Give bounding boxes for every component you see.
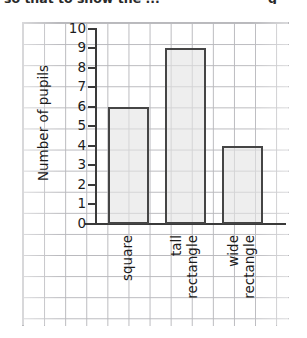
x-axis-category-label: rectangle xyxy=(186,235,200,330)
y-axis-tick-label: 3 xyxy=(60,156,86,172)
y-axis-tick-label: 1 xyxy=(60,195,86,211)
x-axis-category-label-text: wide xyxy=(227,235,241,267)
chart-page: so that to show the ... g Number of pupi… xyxy=(0,0,307,338)
x-axis-category-label: rectangle xyxy=(243,235,257,330)
y-axis-tick-label: 4 xyxy=(60,137,86,153)
y-axis-tick-label-text: 4 xyxy=(64,137,86,153)
y-axis-tick-label: 8 xyxy=(60,59,86,75)
y-axis-tick xyxy=(88,164,97,166)
y-axis-tick xyxy=(88,47,97,49)
x-axis-category-label: square xyxy=(121,235,135,330)
y-axis-tick xyxy=(88,106,97,108)
y-axis-tick-label-text: 10 xyxy=(64,20,86,36)
y-axis-tick-label: 6 xyxy=(60,98,86,114)
bar-chart-plot: Number of pupils 012345678910 squaretall… xyxy=(0,0,307,338)
y-axis-tick-label: 2 xyxy=(60,176,86,192)
y-axis-tick-label-text: 3 xyxy=(64,156,86,172)
y-axis-tick xyxy=(88,28,97,30)
bar xyxy=(165,48,206,224)
y-axis-tick xyxy=(88,203,97,205)
y-axis-tick-label: 9 xyxy=(60,39,86,55)
y-axis-tick xyxy=(88,184,97,186)
y-axis-tick-label-text: 9 xyxy=(64,39,86,55)
y-axis-tick-label-text: 6 xyxy=(64,98,86,114)
x-axis-category-label: tall xyxy=(170,235,184,330)
y-axis-tick xyxy=(88,86,97,88)
y-axis-tick-label-text: 1 xyxy=(64,195,86,211)
bar xyxy=(222,146,263,225)
y-axis-title: Number of pupils xyxy=(35,58,51,188)
y-axis-tick-label-text: 0 xyxy=(64,215,86,231)
y-axis-tick xyxy=(88,67,97,69)
y-axis-tick xyxy=(88,145,97,147)
y-axis-tick xyxy=(88,125,97,127)
x-axis-category-label-text: tall xyxy=(170,235,184,256)
x-axis-category-label-text: square xyxy=(121,235,135,281)
x-axis-category-label: wide xyxy=(227,235,241,330)
y-axis-tick-label-text: 2 xyxy=(64,176,86,192)
bar xyxy=(108,107,149,225)
x-axis-category-label-text: rectangle xyxy=(243,235,257,299)
y-axis-tick-label: 5 xyxy=(60,117,86,133)
y-axis-tick-label: 0 xyxy=(60,215,86,231)
y-axis-tick-label-text: 7 xyxy=(64,78,86,94)
y-axis-tick-label-text: 5 xyxy=(64,117,86,133)
y-axis-tick xyxy=(88,223,97,225)
y-axis-tick-label-text: 8 xyxy=(64,59,86,75)
y-axis-tick-label: 10 xyxy=(60,20,86,36)
x-axis-category-label-text: rectangle xyxy=(186,235,200,299)
y-axis-tick-label: 7 xyxy=(60,78,86,94)
